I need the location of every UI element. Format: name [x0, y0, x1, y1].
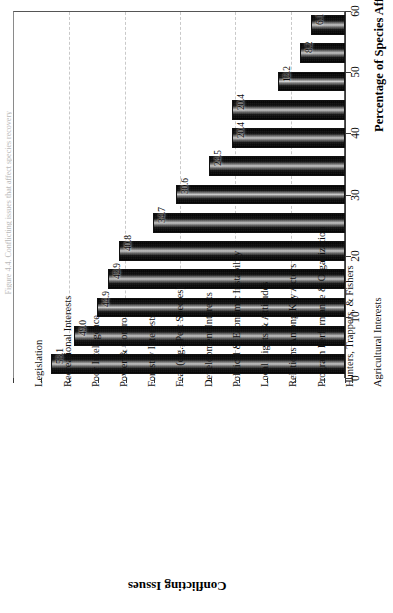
bar: 24.5 [209, 156, 345, 176]
category-tick-label: Fear (e.g., Pest Species) [174, 286, 185, 387]
category-tick [211, 378, 212, 383]
category-tick-label: Development Interests [203, 292, 214, 387]
bar: 42.9 [108, 269, 345, 289]
category-tick-label: Power & Control [118, 315, 129, 387]
category-tick-label: Program Performance & Organization [316, 227, 327, 387]
bar-value-label: 40.8 [123, 235, 133, 251]
value-tick-label: 20 [349, 250, 361, 262]
value-tick-label: 50 [349, 66, 361, 78]
category-tick [267, 378, 268, 383]
bar-value-label: 8.2 [304, 42, 314, 53]
category-axis: LegislationRecreational InterestsPoor In… [13, 378, 345, 379]
category-tick-label: Hunters, Trappers, & Fishers [344, 265, 355, 387]
category-tick-label: Legislation [33, 340, 44, 387]
value-tick-label: 0 [349, 375, 361, 381]
bar: 30.6 [176, 185, 345, 205]
bar: 6.1 [311, 15, 345, 35]
bar-value-label: 24.5 [213, 150, 223, 166]
value-tick-label: 10 [349, 311, 361, 323]
bar-value-label: 6.1 [315, 14, 325, 25]
category-tick [69, 378, 70, 383]
category-tick-label: Poor Intelligence [90, 315, 101, 387]
category-tick [126, 378, 127, 383]
bar-value-label: 44.9 [101, 292, 111, 308]
figure-root: Figure 4.4. Conflicting issues that affe… [0, 0, 393, 613]
category-tick [239, 378, 240, 383]
figure-caption-sliver: Figure 4.4. Conflicting issues that affe… [0, 0, 12, 300]
category-axis-title: Conflicting Issues [128, 578, 227, 594]
category-tick [41, 378, 42, 383]
category-tick-label: Recreational Interests [62, 296, 73, 387]
bar-value-label: 34.7 [157, 207, 167, 223]
category-tick [98, 378, 99, 383]
category-tick-label: Relations Among Key Actors [287, 264, 298, 387]
bar: 8.2 [300, 43, 345, 63]
category-tick [154, 378, 155, 383]
value-tick-label: 40 [349, 128, 361, 140]
value-axis-title: Percentage of Species Affected [372, 0, 387, 132]
bar: 44.9 [97, 298, 345, 318]
value-tick-label: 60 [349, 5, 361, 17]
bar-value-label: 20.4 [236, 122, 246, 138]
category-tick [295, 378, 296, 383]
bar-value-label: 42.9 [112, 263, 122, 279]
bar-value-label: 20.4 [236, 94, 246, 110]
bar: 12.2 [278, 72, 346, 92]
category-tick-label: Agricultural Interests [372, 297, 383, 387]
category-tick-label: Political & Economic Instability [231, 251, 242, 387]
category-tick [324, 378, 325, 383]
bar-value-label: 30.6 [180, 179, 190, 195]
figure-caption-text: Figure 4.4. Conflicting issues that affe… [4, 0, 13, 295]
category-tick-label: Local Rights & Attitudes [259, 282, 270, 387]
category-tick-label: Forestry Interests [146, 314, 157, 387]
bar: 20.4 [232, 100, 345, 120]
bar-value-label: 49.0 [78, 320, 88, 336]
category-tick [182, 378, 183, 383]
category-tick [13, 378, 14, 383]
bar: 20.4 [232, 128, 345, 148]
value-tick-label: 30 [349, 189, 361, 201]
bar-value-label: 12.2 [282, 66, 292, 82]
